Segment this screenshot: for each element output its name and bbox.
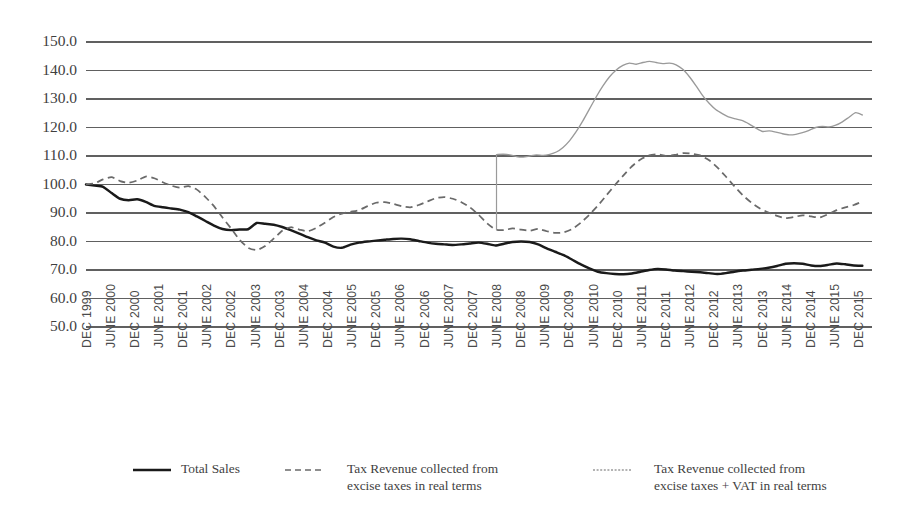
x-axis-tick-labels: DEC 1999JUNE 2000DEC 2000JUNE 2001DEC 20… — [80, 284, 867, 348]
x-axis-tick-label: DEC 2001 — [176, 290, 190, 348]
series-line-excise-taxes — [86, 153, 862, 250]
x-axis-tick-label: JUNE 2004 — [297, 284, 311, 348]
y-axis-tick-label: 140.0 — [42, 61, 77, 78]
x-axis-tick-label: JUNE 2006 — [393, 284, 407, 348]
x-axis-tick-label: DEC 2003 — [273, 290, 287, 348]
legend-label: Total Sales — [181, 461, 240, 476]
x-axis-tick-label: DEC 2005 — [369, 290, 383, 348]
x-axis-tick-label: JUNE 2000 — [104, 284, 118, 348]
legend-item-excise-taxes[interactable]: Tax Revenue collected fromexcise taxes i… — [285, 461, 499, 493]
line-chart: 150.0140.0130.0120.0110.0100.090.080.070… — [0, 0, 911, 525]
x-axis-tick-label: DEC 2002 — [224, 290, 238, 348]
x-axis-tick-label: JUNE 2001 — [152, 284, 166, 348]
x-axis-tick-label: JUNE 2005 — [345, 284, 359, 348]
x-axis-tick-label: DEC 2011 — [659, 291, 673, 348]
x-axis-tick-label: DEC 2013 — [756, 290, 770, 348]
legend-label-line2: excise taxes in real terms — [347, 478, 482, 493]
legend-label-line2: excise taxes + VAT in real terms — [654, 478, 827, 493]
x-axis-tick-label: DEC 2009 — [562, 290, 576, 348]
y-axis-tick-label: 90.0 — [50, 203, 77, 220]
x-axis-tick-label: DEC 2012 — [707, 290, 721, 348]
y-axis-tick-label: 120.0 — [42, 118, 77, 135]
chart-legend: Total SalesTax Revenue collected fromexc… — [133, 461, 827, 493]
legend-item-total-sales[interactable]: Total Sales — [133, 461, 240, 476]
y-axis-tick-label: 150.0 — [42, 32, 77, 49]
x-axis-tick-label: JUNE 2007 — [442, 284, 456, 348]
x-axis-tick-label: JUNE 2003 — [249, 284, 263, 348]
x-axis-tick-label: JUNE 2009 — [538, 284, 552, 348]
x-axis-tick-label: DEC 2010 — [611, 290, 625, 348]
y-axis-tick-label: 70.0 — [50, 260, 77, 277]
chart-container: 150.0140.0130.0120.0110.0100.090.080.070… — [0, 0, 911, 525]
x-axis-tick-label: DEC 2007 — [466, 290, 480, 348]
legend-label: Tax Revenue collected from — [347, 461, 499, 476]
y-axis-tick-labels: 150.0140.0130.0120.0110.0100.090.080.070… — [42, 32, 77, 334]
y-axis-tick-label: 100.0 — [42, 175, 77, 192]
x-axis-tick-label: DEC 2006 — [418, 290, 432, 348]
legend-label: Tax Revenue collected from — [654, 461, 806, 476]
x-axis-tick-label: JUNE 2008 — [490, 284, 504, 348]
x-axis-tick-label: DEC 1999 — [80, 290, 94, 348]
y-axis-tick-label: 80.0 — [50, 232, 77, 249]
x-axis-tick-label: JUNE 2013 — [731, 284, 745, 348]
x-axis-tick-label: JUNE 2010 — [587, 284, 601, 348]
x-axis-tick-label: DEC 2004 — [321, 290, 335, 348]
data-series-group — [86, 61, 862, 274]
x-axis-tick-label: JUNE 2011 — [635, 285, 649, 348]
y-axis-tick-label: 130.0 — [42, 89, 77, 106]
x-axis-tick-label: DEC 2000 — [128, 290, 142, 348]
x-axis-tick-label: DEC 2014 — [804, 290, 818, 348]
x-axis-tick-label: DEC 2015 — [852, 290, 866, 348]
y-axis-tick-label: 110.0 — [43, 146, 78, 163]
x-axis-tick-label: DEC 2008 — [514, 290, 528, 348]
x-axis-tick-label: JUNE 2012 — [683, 284, 697, 348]
x-axis-tick-label: JUNE 2002 — [200, 284, 214, 348]
legend-item-excise-plus-vat[interactable]: Tax Revenue collected fromexcise taxes +… — [593, 461, 827, 493]
x-axis-tick-label: JUNE 2014 — [780, 284, 794, 348]
x-axis-tick-label: JUNE 2015 — [828, 284, 842, 348]
y-axis-tick-label: 60.0 — [50, 289, 77, 306]
series-line-excise-plus-vat — [497, 61, 863, 157]
y-axis-tick-label: 50.0 — [50, 317, 77, 334]
